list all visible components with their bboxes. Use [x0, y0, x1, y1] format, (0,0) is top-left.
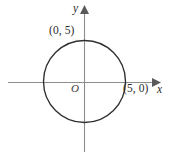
circle-graph-figure: y x O (0, 5) (5, 0) — [0, 0, 169, 163]
y-axis-label: y — [73, 3, 78, 15]
point-label-x-intercept: (5, 0) — [123, 83, 149, 95]
point-label-y-intercept: (0, 5) — [49, 25, 75, 37]
origin-label: O — [71, 83, 79, 94]
x-axis-label: x — [157, 84, 162, 96]
y-axis-arrowhead — [80, 5, 89, 14]
